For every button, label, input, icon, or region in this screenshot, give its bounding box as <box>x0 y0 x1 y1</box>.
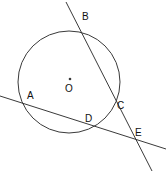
center-point-dot <box>69 78 72 81</box>
point-label-B: B <box>82 12 89 22</box>
secant-line-ade <box>0 96 166 149</box>
point-label-D: D <box>85 114 92 124</box>
geometry-canvas <box>0 0 166 171</box>
point-label-C: C <box>117 101 124 111</box>
point-label-O: O <box>65 84 73 94</box>
geometry-figure: O A B C D E <box>0 0 166 171</box>
secant-line-bce <box>66 2 152 171</box>
point-label-E: E <box>135 128 142 138</box>
point-label-A: A <box>27 91 34 101</box>
